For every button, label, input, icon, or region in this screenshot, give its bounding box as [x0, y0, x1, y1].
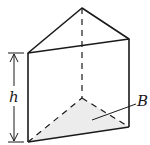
base-face: [28, 98, 129, 142]
base-label: B: [136, 92, 148, 110]
height-label: h: [9, 88, 19, 106]
top-face: [28, 8, 129, 53]
prism-diagram: h B: [0, 0, 150, 145]
